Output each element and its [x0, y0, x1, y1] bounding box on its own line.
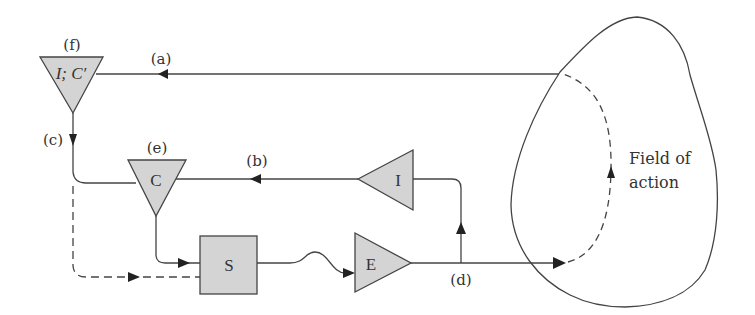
node-s-text: S	[224, 256, 233, 275]
edge-c-to-s	[156, 216, 200, 263]
arrow-down-icon	[69, 134, 77, 146]
dashed-loop-in-field	[560, 73, 611, 262]
edge-s-to-e	[257, 252, 350, 273]
arrow-left-icon	[158, 69, 168, 79]
label-a: (a)	[151, 50, 172, 68]
diagram-svg: I; C′ C I S E (f) (a) (c) (e) (b) (d) Fi…	[0, 0, 755, 315]
node-c-text: C	[150, 171, 161, 190]
label-b: (b)	[246, 152, 267, 170]
label-d: (d)	[450, 271, 471, 289]
edge-d	[413, 179, 461, 263]
node-e-triangle	[355, 233, 411, 292]
arrow-right-icon	[178, 258, 190, 268]
arrow-right-icon	[343, 268, 355, 278]
arrow-up-icon	[607, 166, 615, 178]
arrow-right-icon	[128, 272, 140, 282]
arrow-left-icon	[250, 174, 261, 184]
node-e-text: E	[366, 255, 376, 274]
edge-c	[73, 113, 136, 183]
field-label-line2: action	[629, 173, 679, 192]
node-i-text: I	[395, 171, 401, 190]
label-f: (f)	[63, 36, 80, 54]
field-label-line1: Field of	[629, 149, 692, 168]
node-f-text: I; C′	[55, 64, 87, 83]
label-c: (c)	[43, 131, 63, 149]
arrow-right-icon	[553, 257, 566, 269]
node-i-triangle	[358, 150, 413, 210]
arrow-up-icon	[456, 222, 466, 234]
label-e: (e)	[147, 139, 168, 157]
diagram-canvas: I; C′ C I S E (f) (a) (c) (e) (b) (d) Fi…	[0, 0, 755, 315]
